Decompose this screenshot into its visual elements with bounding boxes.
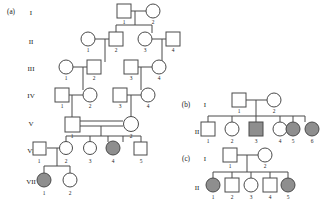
individual-a-III-2[interactable]: 2 [87,60,101,81]
id-label: 5 [140,158,143,164]
individual-a-II-1[interactable]: 1 [81,32,95,53]
id-label: 1 [61,103,64,109]
individual-a-III-3[interactable]: 3 [124,60,138,81]
gen-label-I: I [30,9,33,17]
id-label: 1 [238,108,241,114]
gen-label-IV: IV [27,92,34,100]
id-label: 1 [229,163,232,169]
individual-c-II-3[interactable]: 3 [244,178,258,200]
gen-label-VII: VII [26,178,36,186]
pedigree-svg: (a) I II III IV V VI VII [0,0,322,216]
individual-a-II-2[interactable]: 2 [109,32,123,53]
individual-c-II-2[interactable]: 2 [225,178,239,200]
individual-a-VI-5[interactable]: 5 [134,142,147,164]
id-label: 2 [69,190,72,196]
id-label: 2 [65,158,68,164]
individual-a-II-4[interactable]: 4 [166,32,180,53]
individual-b-II-2[interactable]: 2 [225,122,239,144]
id-label: 4 [279,138,282,144]
id-label: 2 [115,47,118,53]
id-label: 2 [273,108,276,114]
id-label: 2 [264,163,267,169]
individual-b-II-5[interactable]: 5 [286,122,300,144]
gen-label-b-II: II [195,128,200,136]
id-label: 2 [231,194,234,200]
id-label: 3 [119,103,122,109]
gen-label-c-II: II [195,184,200,192]
id-label: 1 [43,190,46,196]
individual-c-II-1[interactable]: 1 [206,178,220,200]
panel-b-links [208,100,305,122]
id-label: 1 [87,47,90,53]
gen-label-c-I: I [204,155,207,163]
id-label: 4 [158,75,161,81]
panel-c: (c) I II 1 2 1 2 [182,148,295,200]
id-label: 5 [287,194,290,200]
individual-b-II-3[interactable]: 3 [249,122,263,144]
id-label: 4 [147,103,150,109]
individual-a-IV-4[interactable]: 4 [141,88,155,109]
panel-b: (b) I II 1 2 1 [182,93,319,144]
id-label: 2 [231,138,234,144]
individual-a-VI-2[interactable]: 2 [60,142,73,165]
id-label: 2 [93,75,96,81]
id-label: 3 [255,138,258,144]
id-label: 1 [71,133,74,139]
id-label: 1 [207,138,210,144]
individual-a-II-3[interactable]: 3 [138,32,152,53]
gen-label-V: V [28,120,33,128]
id-label: 4 [172,47,175,53]
panel-a: (a) I II III IV V VI VII [7,4,180,196]
individual-a-VII-2[interactable]: 2 [63,173,77,196]
individual-a-I-1[interactable]: 1 [117,4,131,25]
individual-a-IV-1[interactable]: 1 [55,88,69,109]
individual-b-I-2[interactable]: 2 [267,93,281,114]
panel-c-label: (c) [182,155,191,163]
individual-a-VI-3[interactable]: 3 [84,142,97,165]
id-label: 1 [38,158,41,164]
individual-a-IV-3[interactable]: 3 [113,88,127,109]
pedigree-figure: (a) I II III IV V VI VII [0,0,322,216]
individual-a-VI-1[interactable]: 1 [33,142,46,164]
id-label: 1 [123,19,126,25]
id-label: 4 [112,158,115,164]
gen-label-II: II [29,38,34,46]
id-label: 2 [89,103,92,109]
id-label: 6 [311,138,314,144]
id-label: 1 [212,194,215,200]
id-label: 3 [130,75,133,81]
individual-a-III-1[interactable]: 1 [59,60,73,81]
individual-b-II-1[interactable]: 1 [201,122,215,144]
id-label: 5 [292,138,295,144]
id-label: 1 [65,75,68,81]
id-label: 3 [250,194,253,200]
gen-label-III: III [28,65,36,73]
individual-c-I-1[interactable]: 1 [223,148,237,169]
panel-b-label: (b) [182,101,191,109]
individual-b-II-6[interactable]: 6 [305,122,319,144]
individual-c-II-5[interactable]: 5 [281,178,295,200]
id-label: 3 [144,47,147,53]
id-label: 4 [269,194,272,200]
individual-a-III-4[interactable]: 4 [152,60,166,81]
gen-label-b-I: I [204,101,207,109]
individual-a-VI-4[interactable]: 4 [106,141,120,164]
individual-a-IV-2[interactable]: 2 [83,88,97,109]
id-label: 3 [89,158,92,164]
id-label: 2 [130,133,133,139]
individual-a-VII-1[interactable]: 1 [37,173,51,196]
individual-b-I-1[interactable]: 1 [232,93,246,114]
individual-a-I-2[interactable]: 2 [146,4,160,25]
panel-a-label: (a) [7,8,16,16]
individual-b-II-4[interactable]: 4 [273,122,287,144]
id-label: 2 [152,19,155,25]
individual-c-II-4[interactable]: 4 [263,178,277,200]
individual-c-I-2[interactable]: 2 [258,148,272,169]
